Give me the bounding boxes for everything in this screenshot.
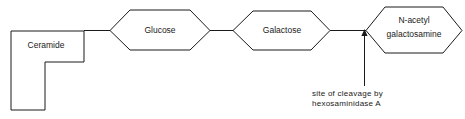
cleavage-annotation-line1: site of cleavage by (312, 89, 383, 98)
node-galactosamine-label-line1: N-acetyl (398, 15, 429, 25)
node-ceramide-label: Ceramide (28, 40, 65, 50)
cleavage-annotation-line2: hexosaminidase A (312, 99, 381, 108)
node-galactosamine-label-line2: galactosamine (387, 29, 442, 39)
node-glucose-label: Glucose (144, 25, 175, 35)
diagram-canvas: Ceramide Glucose Galactose N-acetyl gala… (0, 0, 465, 119)
node-galactose-label: Galactose (263, 25, 302, 35)
diagram-root: Ceramide Glucose Galactose N-acetyl gala… (0, 0, 465, 119)
